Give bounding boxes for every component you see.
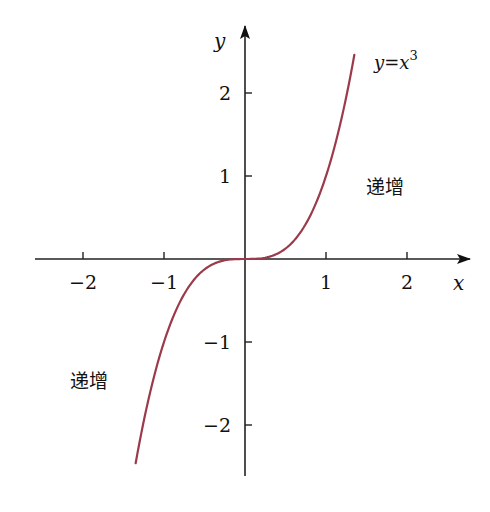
x-tick-label: −1 <box>150 271 178 293</box>
curve-label-exponent: 3 <box>409 48 417 63</box>
curve-label-base: y=x <box>373 52 409 73</box>
annotation-increasing-left: 递增 <box>70 370 108 392</box>
y-axis-label: y <box>213 29 226 53</box>
x-tick-label: 1 <box>320 271 332 293</box>
x-axis-label: x <box>453 271 464 295</box>
x-tick-label: 2 <box>401 271 413 293</box>
x-tick-label: −2 <box>69 271 97 293</box>
curve-label: y=x3 <box>373 48 418 73</box>
y-tick-label: 2 <box>219 82 231 104</box>
y-tick-label: 1 <box>219 165 231 187</box>
annotation-increasing-right: 递增 <box>366 176 404 198</box>
y-tick-label: −1 <box>203 331 231 353</box>
cubic-function-plot: −2−112 21−1−2 x y y=x3 递增 递增 <box>0 0 490 512</box>
y-tick-label: −2 <box>203 414 231 436</box>
